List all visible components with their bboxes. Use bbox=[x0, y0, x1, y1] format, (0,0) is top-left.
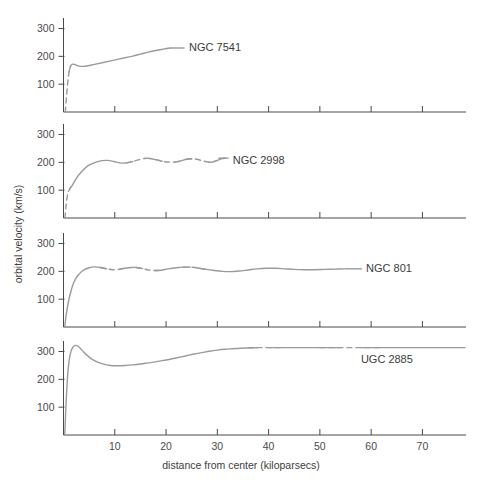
y-tick-label: 200 bbox=[37, 373, 55, 385]
x-tick-label: 10 bbox=[109, 440, 121, 452]
x-tick-label: 60 bbox=[365, 440, 377, 452]
y-tick-label: 100 bbox=[37, 184, 55, 196]
y-tick-label: 300 bbox=[37, 237, 55, 249]
y-tick-label: 300 bbox=[37, 128, 55, 140]
y-tick-label: 100 bbox=[37, 401, 55, 413]
series-label: UGC 2885 bbox=[361, 353, 413, 365]
y-tick-label: 200 bbox=[37, 156, 55, 168]
y-tick-label: 200 bbox=[37, 265, 55, 277]
rotation-curves-figure: 100200300NGC 7541100200300NGC 2998100200… bbox=[0, 0, 482, 483]
y-tick-label: 300 bbox=[37, 345, 55, 357]
series-label: NGC 801 bbox=[366, 262, 412, 274]
panel-ngc-2998: 100200300NGC 2998 bbox=[37, 124, 466, 218]
chart-x-axis-title: distance from center (kiloparsecs) bbox=[0, 459, 482, 471]
x-tick-label: 70 bbox=[417, 440, 429, 452]
curve-segment-solid bbox=[65, 345, 259, 435]
x-tick-label: 30 bbox=[211, 440, 223, 452]
chart-y-axis-title: orbital velocity (km/s) bbox=[12, 154, 24, 314]
y-tick-label: 100 bbox=[37, 293, 55, 305]
panel-ngc-801: 100200300NGC 801 bbox=[37, 233, 466, 327]
series-label: NGC 7541 bbox=[189, 41, 241, 53]
panel-ngc-7541: 100200300NGC 7541 bbox=[37, 18, 466, 112]
x-tick-label: 40 bbox=[263, 440, 275, 452]
panel-ugc-2885: 10020030010203040506070UGC 2885 bbox=[37, 341, 466, 452]
y-tick-label: 300 bbox=[37, 22, 55, 34]
curve-segment-solid bbox=[65, 267, 107, 327]
curve-segment-solid bbox=[70, 160, 133, 189]
plot-canvas: 100200300NGC 7541100200300NGC 2998100200… bbox=[0, 0, 482, 483]
x-tick-label: 50 bbox=[314, 440, 326, 452]
x-tick-label: 20 bbox=[160, 440, 172, 452]
y-tick-label: 100 bbox=[37, 78, 55, 90]
curve-segment-dashed bbox=[65, 185, 73, 218]
curve-segment-solid bbox=[198, 268, 351, 272]
y-tick-label: 200 bbox=[37, 50, 55, 62]
curve-segment-dashed bbox=[65, 66, 70, 112]
series-label: NGC 2998 bbox=[233, 154, 285, 166]
curve-segment-solid bbox=[69, 48, 171, 72]
